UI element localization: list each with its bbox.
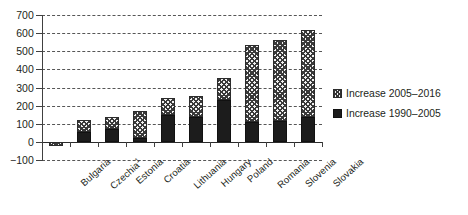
bar-segment-1990-2005[interactable] bbox=[301, 117, 316, 142]
bar-group[interactable] bbox=[105, 15, 120, 160]
legend-label: Increase 2005–2016 bbox=[346, 88, 441, 99]
x-tick bbox=[210, 142, 211, 147]
bar-segment-1990-2005[interactable] bbox=[245, 122, 260, 142]
bar-group[interactable] bbox=[49, 15, 64, 160]
legend-item[interactable]: Increase 1990–2005 bbox=[333, 108, 441, 119]
y-axis-label-0: 0 bbox=[28, 136, 34, 148]
bar-segment-1990-2005[interactable] bbox=[189, 117, 204, 142]
y-axis-label-600: 600 bbox=[16, 27, 34, 39]
y-axis-label-300: 300 bbox=[16, 82, 34, 94]
legend-item[interactable]: Increase 2005–2016 bbox=[333, 88, 441, 99]
y-tick--100 bbox=[36, 160, 43, 161]
legend-swatch-solid-icon bbox=[333, 109, 342, 118]
x-tick bbox=[98, 142, 99, 147]
bar-group[interactable] bbox=[77, 15, 92, 160]
bar-segment-2005-2016[interactable] bbox=[161, 98, 176, 114]
bar-segment-2005-2016[interactable] bbox=[245, 45, 260, 122]
y-axis-label-700: 700 bbox=[16, 9, 34, 21]
y-tick-600 bbox=[36, 33, 43, 34]
bar-group[interactable] bbox=[189, 15, 204, 160]
stacked-bar-chart: 7006005004003002001000−100 BulgariaCzech… bbox=[0, 0, 468, 215]
bar-group[interactable] bbox=[133, 15, 148, 160]
y-axis-label-400: 400 bbox=[16, 63, 34, 75]
x-tick bbox=[322, 142, 323, 147]
bar-segment-2005-2016[interactable] bbox=[49, 142, 64, 146]
y-tick-200 bbox=[36, 106, 43, 107]
bar-segment-1990-2005[interactable] bbox=[105, 129, 120, 142]
bar-segment-2005-2016[interactable] bbox=[301, 30, 316, 116]
bar-segment-2005-2016[interactable] bbox=[77, 120, 92, 132]
chart-legend: Increase 2005–2016Increase 1990–2005 bbox=[333, 88, 441, 128]
bar-group[interactable] bbox=[217, 15, 232, 160]
x-tick bbox=[266, 142, 267, 147]
bar-segment-1990-2005[interactable] bbox=[161, 115, 176, 142]
y-tick-500 bbox=[36, 51, 43, 52]
x-tick bbox=[70, 142, 71, 147]
y-axis-label-200: 200 bbox=[16, 100, 34, 112]
y-tick-300 bbox=[36, 88, 43, 89]
bar-segment-1990-2005[interactable] bbox=[217, 100, 232, 142]
bar-group[interactable] bbox=[273, 15, 288, 160]
y-tick-100 bbox=[36, 124, 43, 125]
bar-group[interactable] bbox=[301, 15, 316, 160]
bar-segment-2005-2016[interactable] bbox=[105, 117, 120, 129]
y-axis-label-500: 500 bbox=[16, 45, 34, 57]
y-axis-label--100: −100 bbox=[10, 154, 34, 166]
bar-segment-2005-2016[interactable] bbox=[189, 96, 204, 117]
bar-group[interactable] bbox=[245, 15, 260, 160]
bar-group[interactable] bbox=[161, 15, 176, 160]
y-axis-tick-labels: 7006005004003002001000−100 bbox=[0, 0, 34, 215]
bar-segment-1990-2005[interactable] bbox=[133, 138, 148, 142]
x-tick bbox=[126, 142, 127, 147]
y-axis-label-100: 100 bbox=[16, 118, 34, 130]
legend-swatch-hatch-icon bbox=[333, 89, 342, 98]
x-tick bbox=[294, 142, 295, 147]
bar-segment-1990-2005[interactable] bbox=[77, 132, 92, 142]
x-tick bbox=[154, 142, 155, 147]
x-tick bbox=[238, 142, 239, 147]
y-tick-400 bbox=[36, 69, 43, 70]
legend-label: Increase 1990–2005 bbox=[346, 108, 441, 119]
plot-area bbox=[42, 15, 322, 160]
bar-segment-2005-2016[interactable] bbox=[217, 78, 232, 100]
y-tick-700 bbox=[36, 15, 43, 16]
y-tick-0 bbox=[36, 142, 43, 143]
x-tick bbox=[182, 142, 183, 147]
bar-segment-1990-2005[interactable] bbox=[273, 121, 288, 142]
bar-segment-2005-2016[interactable] bbox=[133, 111, 148, 138]
bar-segment-2005-2016[interactable] bbox=[273, 40, 288, 121]
